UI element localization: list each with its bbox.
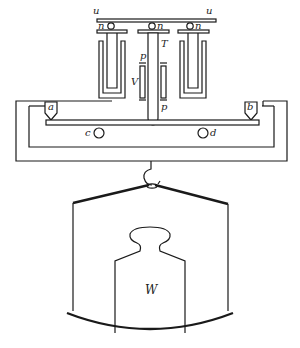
label-W: W [145,283,159,297]
label-n-center: n [157,20,163,31]
left-u-hanger [99,33,125,98]
balance-diagram: u u n n n T p p V [0,0,300,348]
label-n-left: n [98,20,104,31]
roller-d: d [198,127,216,138]
label-p-bottom: p [161,101,168,112]
label-T: T [161,38,169,49]
roller-right [187,23,193,29]
label-V: V [131,76,140,87]
roller-c: c [85,127,104,138]
label-d: d [210,127,216,138]
roller-center [149,23,155,29]
hook [144,161,160,188]
label-c: c [85,127,91,138]
label-a: a [48,101,54,112]
label-u-right: u [206,5,212,16]
weight-W: W [115,227,185,333]
knife-edge-a: a [45,101,57,120]
label-p-top: p [140,50,147,61]
label-b: b [247,101,253,112]
knife-edge-b: b [245,101,257,120]
roller-left [108,23,114,29]
weight-pan [67,185,233,329]
cross-bar [46,120,259,125]
right-u-hanger [180,33,206,98]
label-u-left: u [93,5,99,16]
label-n-right: n [195,20,201,31]
